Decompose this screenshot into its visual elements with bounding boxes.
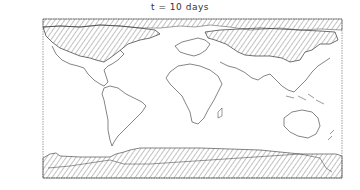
coastline-indonesia <box>286 94 324 104</box>
coastline-africa <box>166 64 222 124</box>
hatched-region-eurasia <box>205 28 338 62</box>
coastline-new-zealand <box>328 130 334 140</box>
coastline-australia <box>284 110 320 138</box>
coastline-madagascar <box>218 108 222 118</box>
hatched-region-north-america <box>43 25 160 62</box>
coastline-europe <box>175 38 210 56</box>
coastline-asia <box>220 58 330 92</box>
hatched-region-antarctica <box>43 148 342 178</box>
coastline-south-america <box>102 86 146 146</box>
world-map <box>0 0 360 190</box>
